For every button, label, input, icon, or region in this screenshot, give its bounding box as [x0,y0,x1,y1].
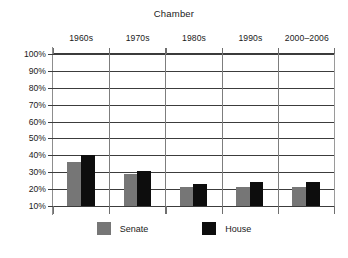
bar-house [306,182,320,206]
y-axis-label: 30% [29,167,46,177]
y-axis-label: 60% [29,117,46,127]
top-axis-tick [334,48,335,54]
category-label: 1990s [222,33,278,47]
bar-group [278,54,334,206]
bar-senate [124,174,138,206]
category-axis-labels: 1960s1970s1980s1990s2000–2006 [53,33,335,47]
gridline [53,206,334,207]
y-axis-label: 20% [29,184,46,194]
bar-chart: Chamber 1960s1970s1980s1990s2000–2006 10… [0,0,348,258]
category-label: 1980s [166,33,222,47]
bar-house [137,171,151,206]
bar-senate [180,187,194,206]
bar-senate [67,162,81,206]
legend-swatch-senate [97,222,111,235]
y-axis-label: 50% [29,133,46,143]
legend-label: House [225,224,251,234]
bottom-axis-tick [109,206,110,214]
bottom-axis-tick [53,206,54,214]
bottom-axis-tick [278,206,279,214]
bar-house [250,182,264,206]
y-axis-label: 70% [29,100,46,110]
legend-swatch-house [202,222,216,235]
legend-item: House [202,222,251,235]
chart-legend: SenateHouse [0,222,348,235]
plot-area: 100%90%80%70%60%50%40%30%20%10% [53,53,335,207]
legend-item: Senate [97,222,149,235]
y-axis-label: 100% [24,49,46,59]
y-axis-label: 40% [29,150,46,160]
bottom-axis-tick [222,206,223,214]
bars-layer [53,54,334,206]
category-label: 1960s [53,33,109,47]
y-axis-label: 90% [29,66,46,76]
y-axis-label: 80% [29,83,46,93]
bar-group [165,54,221,206]
category-label: 1970s [109,33,165,47]
bar-house [193,184,207,206]
bottom-axis-tick [165,206,166,214]
bar-senate [236,187,250,206]
bar-senate [292,187,306,206]
bottom-axis-tick [334,206,335,214]
legend-label: Senate [120,224,149,234]
y-axis-label: 10% [29,201,46,211]
chart-title: Chamber [0,8,348,19]
bar-group [53,54,109,206]
category-label: 2000–2006 [279,33,335,47]
bar-group [222,54,278,206]
bar-house [81,155,95,206]
bar-group [109,54,165,206]
